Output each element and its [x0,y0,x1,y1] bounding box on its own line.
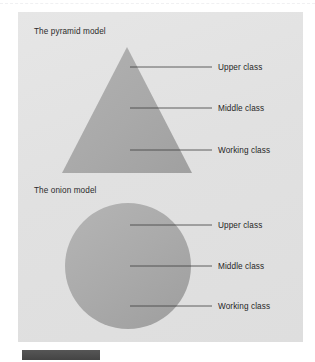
pyramid-callout-label-working: Working class [218,146,270,155]
pyramid-shape [62,47,192,173]
onion-callout-label-working: Working class [218,302,270,311]
onion-callout-label-upper: Upper class [218,221,262,230]
pyramid-callout-label-upper: Upper class [218,63,262,72]
pyramid-callout-label-middle: Middle class [218,104,264,113]
caption-bar [22,350,100,360]
onion-callout-label-middle: Middle class [218,262,264,271]
